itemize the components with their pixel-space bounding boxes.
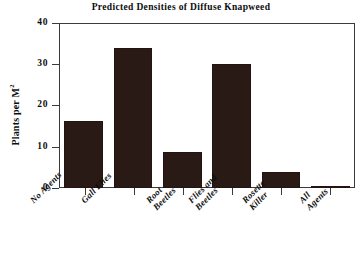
y-tick-label-30: 30 [8,59,48,69]
chart-title: Predicted Densities of Diffuse Knapweed [0,2,362,12]
y-tick-40 [52,23,59,24]
y-tick-30 [52,64,59,65]
bar-chart: Predicted Densities of Diffuse Knapweed … [0,0,362,260]
y-axis-title-superscript: 2 [8,84,15,87]
x-tick-2 [183,188,184,195]
y-tick-label-10: 10 [8,142,48,152]
y-tick-label-20: 20 [8,100,48,110]
x-tick-3 [232,188,233,195]
y-axis-title: Plants per M2 [6,60,24,170]
x-tick-1 [134,188,135,195]
y-axis-title-text: Plants per M [10,88,21,146]
y-tick-20 [52,105,59,106]
y-tick-label-40: 40 [8,18,48,28]
y-tick-10 [52,147,59,148]
y-tick-0 [52,188,59,189]
x-tick-4 [281,188,282,195]
